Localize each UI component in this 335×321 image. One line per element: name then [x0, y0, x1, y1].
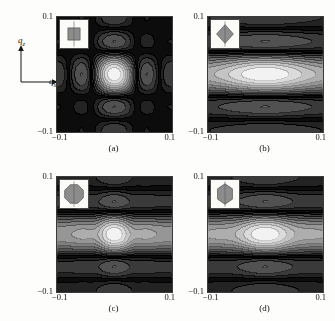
inset-a — [59, 19, 89, 49]
xtick-left-d: −0.1 — [203, 293, 218, 302]
xtick-left-b: −0.1 — [203, 133, 218, 142]
inset-shape-square — [60, 20, 88, 48]
ytick-top-b: 0.1 — [193, 12, 204, 21]
xtick-right-a: 0.1 — [164, 133, 175, 142]
caption-b: (b) — [207, 144, 322, 153]
ytick-bottom-a: −0.1 — [38, 127, 53, 136]
inset-c — [59, 179, 89, 209]
inset-shape-hexagon — [211, 180, 239, 208]
xtick-right-d: 0.1 — [315, 293, 326, 302]
panel-c: 0.1 −0.1 −0.1 0.1 (c) — [56, 176, 171, 291]
ytick-top-a: 0.1 — [42, 12, 53, 21]
caption-d: (d) — [207, 304, 322, 313]
inset-b — [210, 19, 240, 49]
xtick-right-c: 0.1 — [164, 293, 175, 302]
inset-shape-diamond — [211, 20, 239, 48]
figure-root: qz qx 0.1 −0.1 −0.1 0.1 (a) — [0, 0, 335, 321]
xtick-left-c: −0.1 — [52, 293, 67, 302]
caption-a: (a) — [56, 144, 171, 153]
ytick-bottom-b: −0.1 — [189, 127, 204, 136]
ytick-bottom-c: −0.1 — [38, 287, 53, 296]
panel-a: 0.1 −0.1 −0.1 0.1 (a) — [56, 16, 171, 131]
inset-d — [210, 179, 240, 209]
ytick-bottom-d: −0.1 — [189, 287, 204, 296]
panel-d: 0.1 −0.1 −0.1 0.1 (d) — [207, 176, 322, 291]
panel-b: 0.1 −0.1 −0.1 0.1 (b) — [207, 16, 322, 131]
xtick-left-a: −0.1 — [52, 133, 67, 142]
inset-shape-octagon — [60, 180, 88, 208]
ytick-top-c: 0.1 — [42, 172, 53, 181]
caption-c: (c) — [56, 304, 171, 313]
axis-label-qz: qz — [18, 35, 25, 47]
xtick-right-b: 0.1 — [315, 133, 326, 142]
ytick-top-d: 0.1 — [193, 172, 204, 181]
